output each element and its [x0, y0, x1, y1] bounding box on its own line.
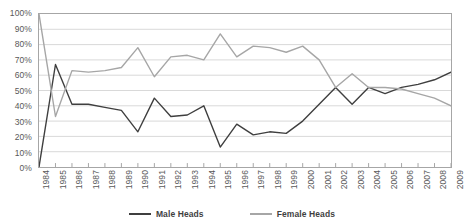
- x-tick-label: 1994: [208, 170, 217, 189]
- x-tick-label: 2005: [390, 170, 399, 189]
- y-tick-label: 60%: [15, 71, 32, 80]
- y-axis: 0%10%20%30%40%50%60%70%80%90%100%: [0, 0, 36, 181]
- x-tick-label: 1996: [241, 170, 250, 189]
- plot-area: [38, 13, 452, 168]
- data-series-layer: [39, 14, 451, 167]
- x-tick-label: 2002: [340, 170, 349, 189]
- x-tick-label: 1989: [125, 170, 134, 189]
- x-tick-label: 2000: [307, 170, 316, 189]
- x-axis: 1984198519861987198819891990199119921993…: [38, 170, 452, 204]
- x-tick-label: 2003: [357, 170, 366, 189]
- x-tick-label: 1999: [290, 170, 299, 189]
- chart-legend: Male HeadsFemale Heads: [0, 204, 464, 224]
- x-tick-label: 2007: [423, 170, 432, 189]
- legend-line-icon: [129, 213, 151, 215]
- y-tick-label: 50%: [15, 86, 32, 95]
- x-tick-label: 1990: [141, 170, 150, 189]
- x-tick-label: 1998: [274, 170, 283, 189]
- x-tick-label: 2008: [439, 170, 448, 189]
- y-tick-label: 80%: [15, 40, 32, 49]
- x-tick-label: 2004: [373, 170, 382, 189]
- x-tick-label: 2001: [324, 170, 333, 189]
- line-chart: 0%10%20%30%40%50%60%70%80%90%100% 198419…: [0, 0, 464, 224]
- x-tick-label: 1995: [224, 170, 233, 189]
- legend-label: Male Heads: [156, 209, 204, 219]
- x-tick-label: 1997: [257, 170, 266, 189]
- x-tick-label: 1987: [92, 170, 101, 189]
- legend-line-icon: [250, 213, 272, 215]
- y-tick-label: 100%: [10, 9, 32, 18]
- x-tick-label: 2009: [456, 170, 464, 189]
- x-tick-label: 1985: [59, 170, 68, 189]
- x-tick-label: 1991: [158, 170, 167, 189]
- y-tick-label: 0%: [20, 164, 33, 173]
- legend-item[interactable]: Male Heads: [129, 209, 204, 219]
- y-tick-label: 30%: [15, 117, 32, 126]
- y-tick-label: 10%: [15, 148, 32, 157]
- x-tick-label: 1993: [191, 170, 200, 189]
- legend-item[interactable]: Female Heads: [250, 209, 335, 219]
- x-tick-label: 1986: [75, 170, 84, 189]
- y-tick-label: 90%: [15, 24, 32, 33]
- legend-label: Female Heads: [277, 209, 335, 219]
- y-tick-label: 70%: [15, 55, 32, 64]
- y-tick-label: 20%: [15, 133, 32, 142]
- series-line-male-heads: [39, 64, 451, 167]
- x-tick-label: 1988: [108, 170, 117, 189]
- y-tick-label: 40%: [15, 102, 32, 111]
- x-tick-label: 2006: [406, 170, 415, 189]
- series-line-female-heads: [39, 14, 451, 117]
- x-tick-label: 1992: [174, 170, 183, 189]
- x-tick-label: 1984: [42, 170, 51, 189]
